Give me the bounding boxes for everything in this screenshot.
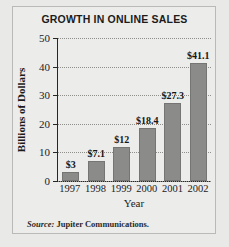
x-tick-label-1999: 1999 bbox=[108, 183, 134, 194]
bar-value-2001: $27.3 bbox=[161, 90, 184, 101]
x-tick-label-1997: 1997 bbox=[57, 183, 83, 194]
source-label: Source: bbox=[27, 219, 54, 229]
bar-value-1997: $3 bbox=[66, 159, 76, 170]
y-tick-0 bbox=[53, 181, 58, 182]
chart-title: GROWTH IN ONLINE SALES bbox=[0, 13, 229, 25]
bar-slot-1998: $7.1 bbox=[84, 38, 109, 181]
y-tick-label-30: 30 bbox=[39, 89, 50, 101]
y-tick-label-10: 10 bbox=[39, 146, 50, 158]
plot-area: 0 10 20 30 40 50 $3 $7.1 $12 bbox=[57, 38, 211, 182]
source-note: Source: Jupiter Communications. bbox=[27, 219, 149, 229]
y-tick-label-50: 50 bbox=[39, 32, 50, 44]
bar-slot-1997: $3 bbox=[58, 38, 83, 181]
bar-series: $3 $7.1 $12 $18.4 $27.3 $41.1 bbox=[58, 38, 211, 181]
bar-1998 bbox=[88, 161, 105, 181]
bar-value-2000: $18.4 bbox=[136, 115, 159, 126]
bar-slot-2001: $27.3 bbox=[160, 38, 185, 181]
bar-1997 bbox=[62, 172, 79, 181]
x-axis-title: Year bbox=[57, 197, 211, 209]
y-tick-label-40: 40 bbox=[39, 61, 50, 73]
bar-value-1999: $12 bbox=[114, 134, 129, 145]
bar-1999 bbox=[113, 147, 130, 181]
x-axis-tick-labels: 1997 1998 1999 2000 2001 2002 bbox=[57, 183, 211, 194]
y-axis-title: Billions of Dollars bbox=[15, 68, 27, 152]
x-tick-label-2002: 2002 bbox=[185, 183, 211, 194]
bar-value-2002: $41.1 bbox=[187, 50, 210, 61]
chart-figure: GROWTH IN ONLINE SALES Billions of Dolla… bbox=[0, 0, 229, 247]
x-tick-label-2000: 2000 bbox=[134, 183, 160, 194]
source-text: Jupiter Communications. bbox=[57, 219, 149, 229]
bar-slot-1999: $12 bbox=[109, 38, 134, 181]
bar-value-1998: $7.1 bbox=[87, 148, 105, 159]
bar-2000 bbox=[139, 128, 156, 181]
bar-2001 bbox=[164, 103, 181, 181]
y-tick-label-0: 0 bbox=[45, 175, 51, 187]
y-tick-label-20: 20 bbox=[39, 118, 50, 130]
gridline-0 bbox=[58, 181, 211, 182]
x-tick-label-1998: 1998 bbox=[83, 183, 109, 194]
x-tick-label-2001: 2001 bbox=[160, 183, 186, 194]
bar-slot-2000: $18.4 bbox=[135, 38, 160, 181]
bar-2002 bbox=[190, 63, 207, 181]
bar-slot-2002: $41.1 bbox=[186, 38, 211, 181]
